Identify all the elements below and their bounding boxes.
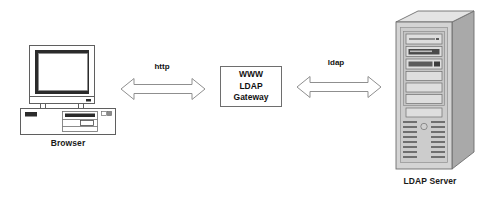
node-www-ldap-gateway: WWW LDAP Gateway	[220, 66, 282, 107]
label-ldap: ldap	[302, 58, 370, 67]
label-http: http	[128, 62, 196, 71]
arrow-ldap	[297, 77, 381, 98]
desktop-computer-icon	[21, 46, 116, 135]
arrow-http	[121, 79, 205, 100]
label-browser: Browser	[20, 138, 116, 148]
tower-server-icon	[396, 11, 474, 169]
label-ldap-server: LDAP Server	[378, 176, 482, 186]
gateway-line-2: LDAP	[239, 81, 262, 93]
gateway-line-3: Gateway	[234, 92, 269, 104]
gateway-line-1: WWW	[239, 69, 263, 81]
